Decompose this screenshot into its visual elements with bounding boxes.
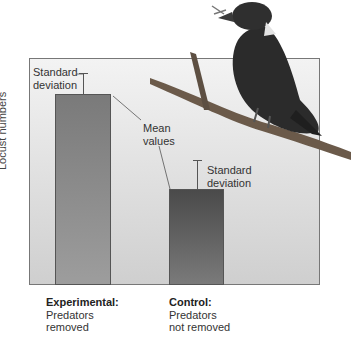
sd-label-line1: Standard [33, 66, 78, 79]
mean-label-line2: values [143, 135, 175, 148]
sd-label-experimental: Standard deviation [33, 66, 78, 92]
category-line1: Predators [46, 309, 119, 322]
sd-label-line1: Standard [207, 164, 252, 177]
category-line2: not removed [169, 321, 230, 334]
category-control: Control: Predators not removed [169, 296, 230, 334]
annotation-leader-lines [0, 0, 351, 343]
category-line2: removed [46, 321, 119, 334]
mean-label-line1: Mean [143, 122, 175, 135]
category-title: Control: [169, 296, 230, 309]
mean-values-label: Mean values [143, 122, 175, 148]
sd-label-line2: deviation [207, 177, 252, 190]
category-experimental: Experimental: Predators removed [46, 296, 119, 334]
sd-label-control: Standard deviation [207, 164, 252, 190]
sd-label-line2: deviation [33, 79, 78, 92]
category-title: Experimental: [46, 296, 119, 309]
category-line1: Predators [169, 309, 230, 322]
